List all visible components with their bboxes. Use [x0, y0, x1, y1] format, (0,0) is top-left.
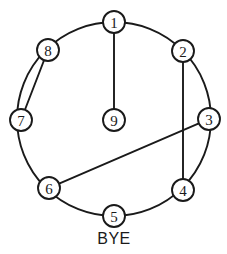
bye-caption: BYE — [97, 230, 131, 247]
graph-figure: 123456789 BYE — [0, 0, 227, 254]
node-3-label: 3 — [205, 112, 213, 128]
node-7-label: 7 — [17, 113, 25, 129]
diagram-canvas: 123456789 BYE — [0, 0, 227, 254]
node-1[interactable]: 1 — [103, 11, 125, 33]
node-1-label: 1 — [110, 15, 118, 31]
node-4[interactable]: 4 — [172, 179, 194, 201]
node-6-label: 6 — [45, 181, 53, 197]
node-layer: 123456789 — [10, 11, 220, 227]
node-2[interactable]: 2 — [172, 40, 194, 62]
node-9-label: 9 — [110, 113, 118, 129]
node-4-label: 4 — [179, 183, 187, 199]
node-3[interactable]: 3 — [198, 108, 220, 130]
node-8-label: 8 — [44, 43, 52, 59]
node-7[interactable]: 7 — [10, 109, 32, 131]
edge-8-7 — [25, 60, 44, 109]
node-9[interactable]: 9 — [103, 109, 125, 131]
node-8[interactable]: 8 — [37, 39, 59, 61]
node-5[interactable]: 5 — [103, 205, 125, 227]
node-6[interactable]: 6 — [38, 177, 60, 199]
node-5-label: 5 — [110, 209, 118, 225]
edge-3-6 — [59, 123, 199, 183]
node-2-label: 2 — [179, 44, 187, 60]
